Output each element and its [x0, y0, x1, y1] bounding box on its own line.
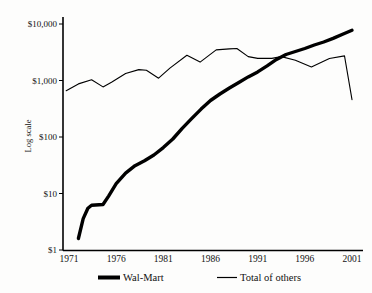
legend-label-total-of-others: Total of others — [240, 272, 301, 283]
x-tick-label: 1996 — [295, 254, 314, 264]
x-tick-label: 2001 — [343, 254, 362, 264]
total-of-others-line — [66, 49, 352, 100]
x-tick-label: 1976 — [107, 254, 126, 264]
y-tick-label: $1,000 — [32, 76, 57, 86]
x-tick-label: 1971 — [60, 254, 79, 264]
y-tick-label: $10 — [44, 189, 58, 199]
x-tick-label: 1991 — [248, 254, 267, 264]
y-tick-label: $10,000 — [28, 19, 58, 29]
x-tick-label: 1986 — [201, 254, 220, 264]
legend-label-wal-mart: Wal-Mart — [123, 272, 164, 283]
y-tick-label: $100 — [39, 132, 58, 142]
y-tick-label: $1 — [48, 245, 57, 255]
wal-mart-line — [78, 30, 352, 238]
chart-figure: $10,000$1,000$100$10$1197119761981198619… — [0, 0, 372, 293]
log-scale-line-chart: $10,000$1,000$100$10$1197119761981198619… — [0, 0, 372, 293]
y-axis-title: Log scale — [23, 119, 33, 152]
x-tick-label: 1981 — [154, 254, 173, 264]
